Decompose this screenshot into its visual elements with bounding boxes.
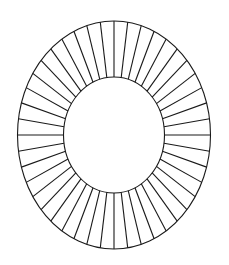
- spoke-line: [62, 184, 87, 231]
- spoke-line: [18, 143, 64, 151]
- spoke-line: [33, 166, 72, 196]
- spoke-line: [18, 119, 64, 127]
- spoke-line: [121, 22, 128, 77]
- spoke-line: [100, 22, 107, 77]
- spoke-line: [147, 49, 177, 91]
- spoke-line: [62, 39, 87, 86]
- spoke-line: [121, 192, 128, 247]
- spoke-line: [141, 39, 166, 86]
- spoke-line: [152, 173, 187, 210]
- spoke-line: [164, 143, 210, 151]
- spoke-line: [147, 179, 177, 221]
- ring-spokes: [18, 21, 211, 249]
- inner-ellipse: [64, 77, 165, 193]
- spoke-line: [141, 184, 166, 231]
- spoke-line: [41, 173, 76, 210]
- spoke-line: [152, 60, 187, 97]
- spoke-line: [51, 49, 81, 91]
- spoke-line: [41, 60, 76, 97]
- spoke-line: [164, 119, 210, 127]
- spoke-line: [51, 179, 81, 221]
- spoked-ring-diagram: [0, 0, 229, 265]
- spoke-line: [100, 192, 107, 247]
- spoke-line: [33, 73, 72, 103]
- spoke-line: [156, 73, 195, 103]
- spoke-line: [156, 166, 195, 196]
